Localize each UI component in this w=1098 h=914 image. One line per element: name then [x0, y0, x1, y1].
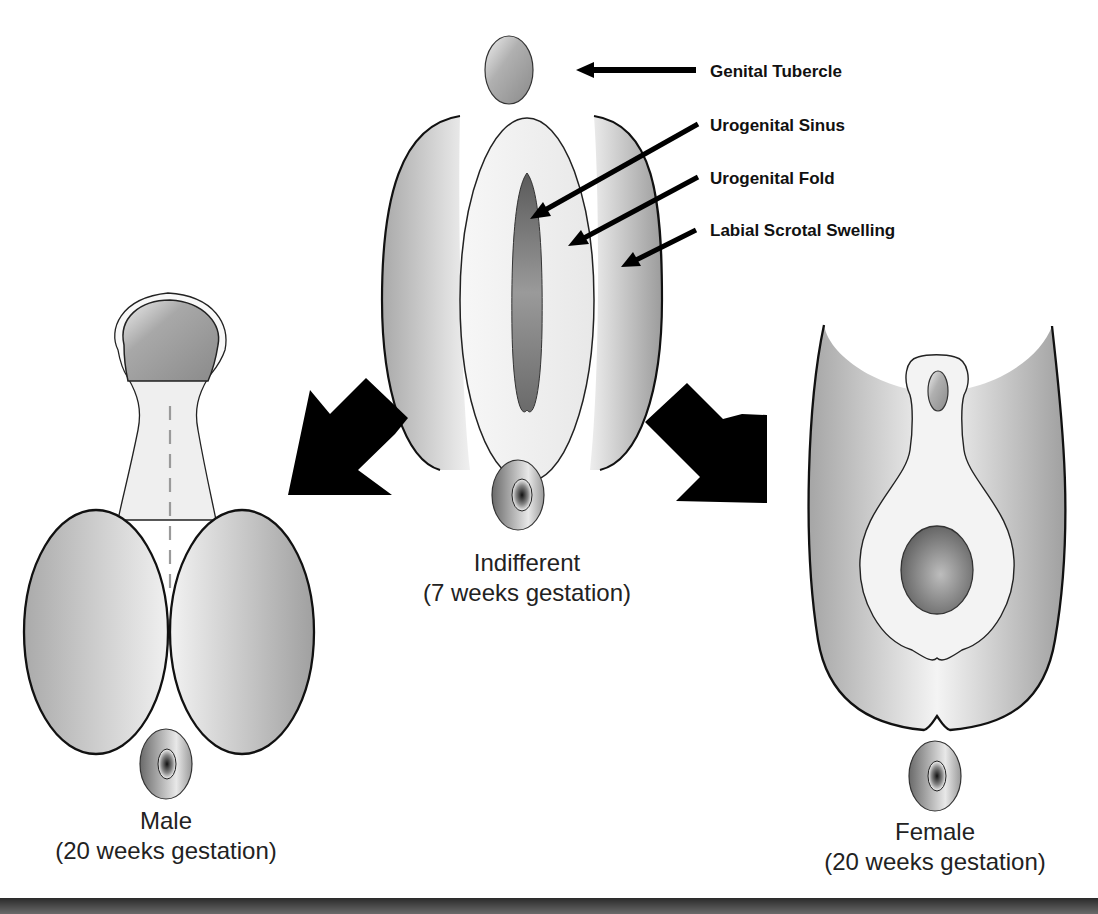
vaginal-opening	[901, 526, 973, 614]
anus-female	[909, 741, 961, 811]
indifferent-stage: Indifferent (7 weeks gestation)	[382, 36, 662, 606]
arrow-to-male-icon	[288, 378, 408, 495]
label-urogenital-sinus: Urogenital Sinus	[710, 116, 845, 135]
label-genital-tubercle: Genital Tubercle	[710, 62, 842, 81]
arrowhead-icon	[576, 62, 594, 78]
label-labial-scrotal-swelling: Labial Scrotal Swelling	[710, 221, 895, 240]
arrow-to-female-icon	[645, 383, 767, 503]
female-stage: Female (20 weeks gestation)	[809, 325, 1066, 875]
penile-shaft	[118, 378, 216, 520]
indifferent-title: Indifferent	[474, 549, 581, 576]
label-urogenital-fold: Urogenital Fold	[710, 169, 835, 188]
anus-indifferent	[492, 460, 544, 530]
glans	[123, 300, 219, 381]
genital-tubercle	[485, 36, 533, 104]
bottom-border-bar	[0, 898, 1098, 914]
male-age: (20 weeks gestation)	[55, 837, 276, 864]
clitoris	[928, 371, 948, 411]
scrotum-right	[170, 510, 314, 754]
female-title: Female	[895, 818, 975, 845]
male-stage: Male (20 weeks gestation)	[24, 293, 314, 864]
differentiation-diagram: Indifferent (7 weeks gestation) Genital …	[0, 0, 1098, 914]
annotation-labels: Genital Tubercle Urogenital Sinus Urogen…	[530, 62, 895, 267]
urogenital-sinus	[512, 173, 542, 412]
female-age: (20 weeks gestation)	[824, 848, 1045, 875]
anus-male	[140, 729, 192, 799]
male-title: Male	[140, 807, 192, 834]
scrotum-left	[24, 510, 168, 754]
indifferent-age: (7 weeks gestation)	[423, 579, 631, 606]
